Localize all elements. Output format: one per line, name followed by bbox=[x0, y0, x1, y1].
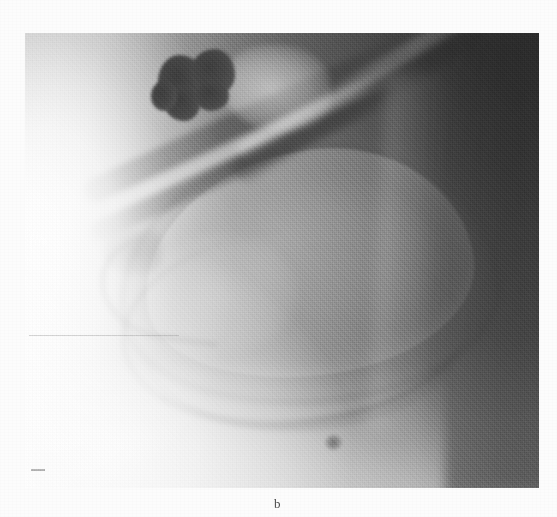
figure-caption: b bbox=[0, 496, 557, 512]
left-edge-washout bbox=[25, 33, 539, 488]
figure-page: b bbox=[0, 0, 557, 517]
radiograph-image bbox=[25, 33, 539, 488]
panel-label: b bbox=[274, 496, 281, 511]
gallstone-icon bbox=[151, 81, 177, 111]
film-scratch bbox=[29, 335, 179, 336]
film-scratch bbox=[31, 469, 45, 471]
dark-speck bbox=[325, 435, 342, 450]
